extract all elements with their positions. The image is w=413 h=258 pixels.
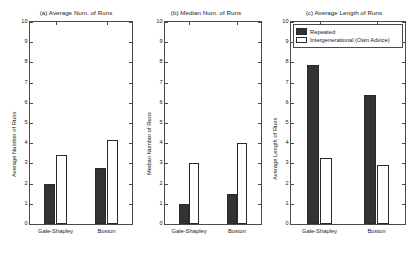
panel-a-bar bbox=[56, 155, 67, 224]
panel-c-y-tick-mark-right bbox=[402, 224, 405, 225]
panel-b-bar bbox=[227, 194, 237, 224]
panel-b-y-tick-mark-right bbox=[258, 163, 261, 164]
panel-c-y-tick-mark-right bbox=[402, 123, 405, 124]
panel-b-y-tick-mark-right bbox=[258, 204, 261, 205]
panel-b-plot-area: 012345678910Gale-ShapleyBoston bbox=[164, 21, 262, 225]
panel-a-x-tick-mark-top bbox=[56, 22, 57, 25]
panel-c-bar bbox=[377, 165, 389, 224]
panel-c-y-tick-label: 4 bbox=[285, 140, 288, 146]
panel-b-y-tick-mark bbox=[165, 83, 168, 84]
panel-a-x-tick-mark-top bbox=[107, 22, 108, 25]
panel-b-y-tick-mark-right bbox=[258, 184, 261, 185]
legend-item-repeated: Repeated bbox=[296, 28, 399, 36]
panel-c-y-tick-mark bbox=[291, 22, 294, 23]
panel-c-y-tick-label: 2 bbox=[285, 181, 288, 187]
panel-c-x-tick-label: Gale-Shapley bbox=[302, 228, 337, 234]
panel-b-y-tick-mark-right bbox=[258, 22, 261, 23]
panel-c-y-axis-label: Average Length of Runs bbox=[272, 118, 278, 180]
panel-a-y-tick-label: 9 bbox=[24, 39, 27, 45]
panel-c-y-tick-mark bbox=[291, 83, 294, 84]
panel-a-y-tick-mark-right bbox=[129, 42, 132, 43]
panel-c-y-tick-label: 10 bbox=[282, 19, 288, 25]
panel-b-x-tick-mark-top bbox=[237, 22, 238, 25]
panel-b-y-tick-label: 6 bbox=[159, 100, 162, 106]
panel-b-y-tick-mark bbox=[165, 184, 168, 185]
panel-a-y-tick-label: 3 bbox=[24, 161, 27, 167]
panel-b-y-tick-mark-right bbox=[258, 224, 261, 225]
panel-b-y-tick-label: 1 bbox=[159, 201, 162, 207]
legend-label-repeated: Repeated bbox=[310, 29, 335, 35]
panel-b-y-tick-label: 10 bbox=[156, 19, 162, 25]
panel-b-y-tick-mark-right bbox=[258, 62, 261, 63]
panel-c-y-tick-mark-right bbox=[402, 62, 405, 63]
panel-a-y-tick-label: 4 bbox=[24, 140, 27, 146]
panel-a-y-tick-label: 5 bbox=[24, 120, 27, 126]
panel-a-y-tick-label: 7 bbox=[24, 80, 27, 86]
panel-c: (c) Average Length of Runs Average Lengt… bbox=[263, 0, 413, 258]
legend-item-intergenerational: Intergenerational (Own Advice) bbox=[296, 36, 399, 44]
panel-a-y-tick-mark bbox=[30, 42, 33, 43]
legend-label-intergenerational: Intergenerational (Own Advice) bbox=[310, 37, 390, 43]
panel-a-y-tick-mark-right bbox=[129, 204, 132, 205]
panel-b: (b) Median Num. of Runs Median Number of… bbox=[137, 0, 265, 258]
panel-c-y-tick-label: 0 bbox=[285, 221, 288, 227]
panel-a-y-tick-mark bbox=[30, 103, 33, 104]
panel-a-y-tick-label: 1 bbox=[24, 201, 27, 207]
panel-a: (a) Average Num. of Runs Average Number … bbox=[0, 0, 138, 258]
panel-a-y-tick-mark bbox=[30, 143, 33, 144]
panel-a-x-tick-label: Boston bbox=[97, 228, 115, 234]
panel-c-bar bbox=[320, 158, 332, 224]
panel-c-y-tick-mark bbox=[291, 103, 294, 104]
panel-a-x-tick-label: Gale-Shapley bbox=[38, 228, 73, 234]
panel-b-y-tick-label: 2 bbox=[159, 181, 162, 187]
panel-c-x-tick-label: Boston bbox=[367, 228, 385, 234]
panel-a-y-tick-mark bbox=[30, 123, 33, 124]
panel-c-y-tick-label: 6 bbox=[285, 100, 288, 106]
panel-a-y-tick-mark bbox=[30, 22, 33, 23]
panel-c-y-tick-mark-right bbox=[402, 204, 405, 205]
legend: Repeated Intergenerational (Own Advice) bbox=[293, 24, 403, 48]
panel-b-y-tick-label: 9 bbox=[159, 39, 162, 45]
panel-c-y-tick-mark bbox=[291, 224, 294, 225]
panel-a-y-tick-mark-right bbox=[129, 143, 132, 144]
panel-a-plot-area: 012345678910Gale-ShapleyBoston bbox=[29, 21, 133, 225]
panel-b-y-tick-mark bbox=[165, 204, 168, 205]
panel-b-y-tick-label: 0 bbox=[159, 221, 162, 227]
panel-c-y-tick-label: 8 bbox=[285, 60, 288, 66]
panel-a-y-tick-label: 10 bbox=[21, 19, 27, 25]
panel-a-y-tick-mark-right bbox=[129, 83, 132, 84]
panel-a-y-tick-mark-right bbox=[129, 103, 132, 104]
panel-c-y-tick-mark-right bbox=[402, 22, 405, 23]
panel-b-y-tick-label: 7 bbox=[159, 80, 162, 86]
panel-c-y-tick-mark-right bbox=[402, 163, 405, 164]
panel-b-title: (b) Median Num. of Runs bbox=[137, 9, 265, 16]
panel-a-y-tick-mark-right bbox=[129, 22, 132, 23]
panel-b-y-tick-label: 8 bbox=[159, 60, 162, 66]
panel-a-y-tick-mark bbox=[30, 62, 33, 63]
panel-a-y-tick-label: 0 bbox=[24, 221, 27, 227]
panel-a-bar bbox=[107, 140, 118, 224]
figure-bar-chart-panels: (a) Average Num. of Runs Average Number … bbox=[0, 0, 413, 258]
panel-b-y-tick-mark bbox=[165, 143, 168, 144]
panel-b-y-tick-mark bbox=[165, 163, 168, 164]
panel-c-y-tick-mark bbox=[291, 143, 294, 144]
panel-b-bar bbox=[189, 163, 199, 224]
panel-a-y-axis-label: Average Number of Runs bbox=[11, 112, 17, 177]
panel-b-x-tick-mark-top bbox=[189, 22, 190, 25]
panel-c-y-tick-label: 1 bbox=[285, 201, 288, 207]
panel-b-y-tick-mark bbox=[165, 22, 168, 23]
panel-c-y-tick-mark bbox=[291, 184, 294, 185]
panel-c-y-tick-label: 9 bbox=[285, 39, 288, 45]
panel-b-bar bbox=[179, 204, 189, 224]
panel-b-y-tick-label: 5 bbox=[159, 120, 162, 126]
panel-c-y-tick-mark-right bbox=[402, 83, 405, 84]
panel-a-bar bbox=[95, 168, 106, 224]
legend-swatch-repeated-icon bbox=[296, 28, 307, 35]
panel-c-y-tick-mark bbox=[291, 163, 294, 164]
panel-c-y-tick-mark-right bbox=[402, 103, 405, 104]
panel-c-title: (c) Average Length of Runs bbox=[263, 9, 413, 16]
panel-b-y-tick-mark bbox=[165, 62, 168, 63]
panel-b-bar bbox=[237, 143, 247, 224]
panel-b-x-tick-label: Gale-Shapley bbox=[171, 228, 206, 234]
legend-swatch-intergenerational-icon bbox=[296, 37, 307, 44]
